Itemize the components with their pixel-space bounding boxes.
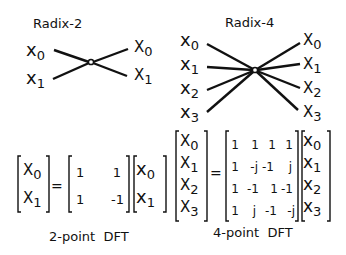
svg-text:1: 1: [268, 138, 276, 152]
dft2-rhs-1: x1: [136, 186, 155, 210]
dft4-lhs-3: X3: [180, 198, 199, 219]
svg-text:-1: -1: [247, 182, 259, 196]
svg-text:1: 1: [231, 138, 239, 152]
dft4-caption: 4-point DFT: [213, 225, 293, 240]
svg-text:-j: -j: [287, 204, 295, 218]
svg-text:1: 1: [251, 138, 259, 152]
radix4-output-3: X3: [303, 103, 322, 124]
radix2-lines: [53, 49, 128, 79]
dft2-lhs-0: X0: [23, 161, 42, 182]
radix4-title: Radix-4: [225, 15, 274, 30]
dft2-m10: 1: [76, 192, 84, 207]
dft4-rhs-2: x2: [303, 174, 321, 197]
radix2-input-1: x1: [26, 67, 45, 91]
dft2-caption: 2-point DFT: [49, 229, 129, 244]
radix4-lines: [207, 43, 300, 112]
radix2-input-0: x0: [26, 39, 45, 63]
dft4-lhs-1: X1: [180, 154, 199, 175]
fft-butterfly-diagram: Radix-2 x0 x1 X0 X1 Radix-4 x0 x1 x2: [0, 0, 346, 255]
radix2-butterfly: Radix-2 x0 x1 X0 X1: [26, 16, 153, 91]
radix4-butterfly: Radix-4 x0 x1 x2 x3 X0 X1 X2 X3: [180, 15, 322, 125]
dft2-m00: 1: [76, 165, 84, 180]
dft2-equals: =: [51, 178, 63, 194]
svg-text:-1: -1: [265, 204, 277, 218]
svg-text:1: 1: [231, 160, 239, 174]
svg-text:1: 1: [231, 182, 239, 196]
svg-text:1: 1: [270, 182, 278, 196]
svg-text:j: j: [288, 160, 292, 174]
dft4-matrix: 1 1 1 1 1 -j -1 j 1 -1 1 -1 1 j -1 -j: [231, 138, 295, 218]
radix4-input-1: x1: [180, 53, 199, 77]
dft2-m11: -1: [111, 192, 124, 207]
svg-text:1: 1: [231, 204, 239, 218]
svg-text:1: 1: [285, 138, 293, 152]
radix4-output-2: X2: [303, 79, 322, 100]
radix2-title: Radix-2: [33, 16, 82, 31]
radix4-output-1: X1: [303, 55, 322, 76]
svg-text:-j: -j: [250, 160, 258, 174]
svg-text:-1: -1: [281, 182, 293, 196]
radix4-input-2: x2: [180, 77, 199, 101]
dft4-lhs-0: X0: [180, 132, 199, 153]
radix2-output-1: X1: [134, 66, 153, 87]
radix4-input-0: x0: [180, 29, 199, 53]
radix2-output-0: X0: [134, 38, 153, 59]
radix4-output-0: X0: [303, 31, 322, 52]
radix4-input-3: x3: [180, 101, 199, 125]
dft2-rhs-0: x0: [136, 158, 155, 182]
dft2-lhs-1: X1: [23, 189, 42, 210]
dft4-rhs-0: x0: [303, 130, 321, 153]
dft4-rhs-3: x3: [303, 196, 321, 219]
dft4-equals: =: [210, 165, 222, 181]
dft4-equation: X0 X1 X2 X3 = 1 1 1 1 1 -j -1 j 1 -1 1 -…: [176, 130, 330, 240]
dft4-lhs-2: X2: [180, 176, 199, 197]
dft4-rhs-1: x1: [303, 152, 321, 175]
dft2-equation: X0 X1 = 1 1 1 -1 x0 x1 2-point DFT: [18, 156, 166, 244]
dft2-m01: 1: [113, 165, 121, 180]
svg-text:j: j: [252, 204, 256, 218]
svg-text:-1: -1: [262, 160, 274, 174]
